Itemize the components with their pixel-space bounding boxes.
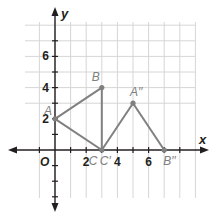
point-A <box>52 116 57 121</box>
segment-C-A <box>55 119 102 150</box>
point-label-C: C <box>89 154 98 168</box>
point-label-A: A <box>43 104 52 118</box>
coordinate-plane: x y O 246246 ABCC′A′′B′′ <box>0 0 214 223</box>
point-A2 <box>130 101 135 106</box>
x-axis-arrow-right-icon <box>200 147 209 154</box>
x-tick-label: 4 <box>114 155 121 169</box>
points: ABCC′A′′B′′ <box>43 70 176 168</box>
x-tick-label: 6 <box>145 155 152 169</box>
point-label-C2: C′ <box>100 154 112 168</box>
point-label-B2: B′′ <box>163 154 176 168</box>
point-B2 <box>162 147 167 152</box>
point-label-B: B <box>92 70 100 84</box>
ticks: 246246 <box>39 41 179 197</box>
origin-label: O <box>40 155 50 169</box>
y-tick-label: 6 <box>42 49 49 63</box>
y-axis-label: y <box>60 6 69 21</box>
x-axis-arrow-left-icon <box>8 147 17 154</box>
axes: x y O <box>8 6 209 212</box>
point-B <box>99 85 104 90</box>
point-C <box>99 147 104 152</box>
y-axis-arrow-up-icon <box>52 7 59 16</box>
x-axis-label: x <box>198 132 207 147</box>
segments <box>55 88 164 150</box>
point-label-A2: A′′ <box>129 85 143 99</box>
y-axis-arrow-down-icon <box>52 203 59 212</box>
y-tick-label: 4 <box>42 81 49 95</box>
